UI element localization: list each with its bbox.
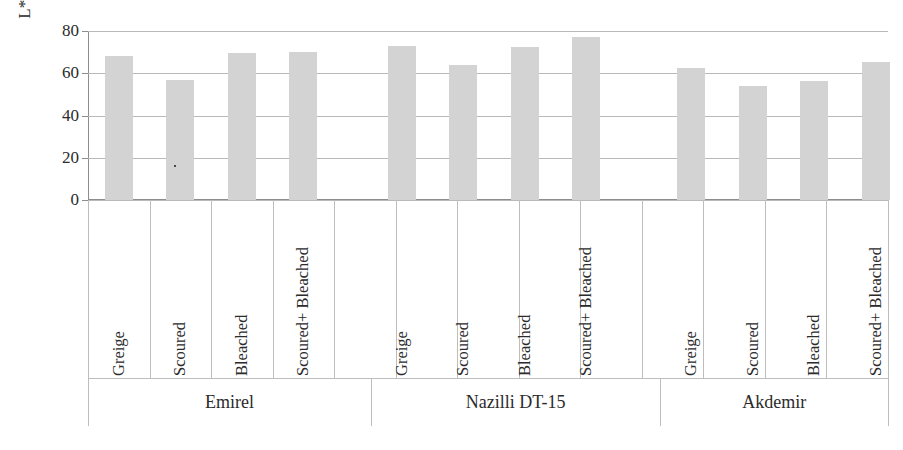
cell-separator: [765, 200, 766, 378]
bar: [449, 65, 477, 200]
y-tick-label: 80: [62, 21, 79, 41]
group-label: Akdemir: [660, 378, 888, 426]
cell-separator: [826, 200, 827, 378]
x-category-label: Scoured+ Bleached: [865, 206, 887, 376]
x-category-label: Bleached: [231, 206, 253, 376]
bar: [862, 62, 890, 200]
y-tick-label: 40: [62, 106, 79, 126]
bar: [105, 56, 133, 200]
cell-separator: [703, 200, 704, 378]
gridline: [88, 116, 888, 117]
bar: [228, 53, 256, 200]
group-separator: [888, 378, 889, 426]
group-label: Nazilli DT-15: [371, 378, 660, 426]
x-category-label: Greige: [108, 206, 130, 376]
bar: [739, 86, 767, 200]
y-tick-label: 0: [71, 190, 80, 210]
cell-separator: [150, 200, 151, 378]
cell-separator: [88, 200, 89, 378]
cell-separator: [273, 200, 274, 378]
x-category-label: Greige: [680, 206, 702, 376]
gridline: [88, 73, 888, 74]
x-category-label: Bleached: [803, 206, 825, 376]
x-category-label: Scoured: [452, 206, 474, 376]
y-axis-title: L* (lightness): [10, 0, 40, 58]
bar: [166, 80, 194, 200]
x-category-label: Greige: [391, 206, 413, 376]
plot-area: 020406080: [88, 31, 888, 200]
x-axis-label-table: GreigeScouredBleachedScoured+ BleachedGr…: [88, 200, 888, 428]
cell-separator: [334, 200, 335, 378]
bar: [800, 81, 828, 200]
y-tick-label: 60: [62, 63, 79, 83]
cell-separator: [642, 200, 643, 378]
scan-speck-artifact: [174, 165, 176, 167]
gridline: [88, 31, 888, 32]
y-tick-mark: [82, 73, 88, 74]
bar-chart-figure: L* (lightness) 020406080 GreigeScouredBl…: [0, 0, 903, 450]
gridline: [88, 158, 888, 159]
x-category-label: Scoured+ Bleached: [575, 206, 597, 376]
cell-separator: [211, 200, 212, 378]
y-tick-mark: [82, 31, 88, 32]
bar: [388, 46, 416, 200]
y-tick-mark: [82, 158, 88, 159]
group-label: Emirel: [88, 378, 371, 426]
x-category-label: Scoured: [742, 206, 764, 376]
x-category-label: Scoured: [169, 206, 191, 376]
y-tick-label: 20: [62, 148, 79, 168]
x-category-label: Bleached: [514, 206, 536, 376]
x-category-label: Scoured+ Bleached: [292, 206, 314, 376]
y-tick-mark: [82, 116, 88, 117]
cell-separator: [888, 200, 889, 378]
bar: [677, 68, 705, 200]
bar: [511, 47, 539, 200]
bar: [289, 52, 317, 200]
bar: [572, 37, 600, 200]
